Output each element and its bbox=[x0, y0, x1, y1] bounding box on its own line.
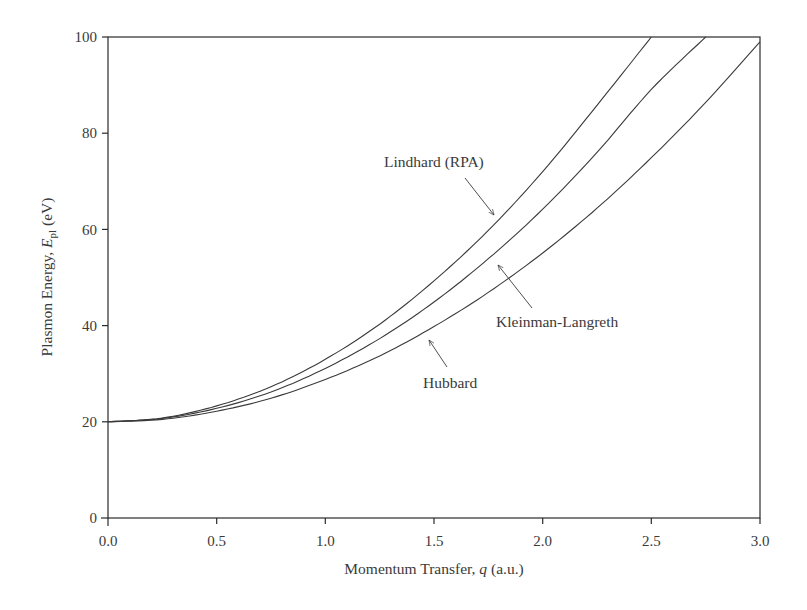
y-axis-label: Plasmon Energy, Epl (eV) bbox=[38, 198, 58, 357]
y-tick-label: 60 bbox=[82, 222, 97, 238]
annotation-hubbard: Hubbard bbox=[423, 374, 477, 391]
curve-kleinman-langreth bbox=[108, 37, 706, 422]
x-tick-label: 0.0 bbox=[99, 533, 118, 549]
x-tick-label: 3.0 bbox=[751, 533, 770, 549]
x-tick-label: 2.0 bbox=[533, 533, 552, 549]
plot-frame bbox=[108, 37, 760, 518]
x-tick-label: 0.5 bbox=[207, 533, 226, 549]
curve-lindhard-rpa bbox=[108, 37, 651, 422]
curve-hubbard bbox=[108, 42, 760, 422]
y-tick-label: 0 bbox=[90, 510, 98, 526]
annotation-lindhard-rpa: Lindhard (RPA) bbox=[384, 153, 484, 171]
x-axis bbox=[108, 518, 760, 526]
annotation-kleinman-langreth: Kleinman-Langreth bbox=[496, 313, 618, 330]
y-tick-label: 100 bbox=[75, 29, 98, 45]
y-tick-label: 20 bbox=[82, 414, 97, 430]
arrow-hubbard-icon bbox=[429, 340, 447, 367]
plasmon-dispersion-chart: 0.0 0.5 1.0 1.5 2.0 2.5 3.0 0 20 40 60 8… bbox=[0, 0, 807, 610]
arrow-kleinman-icon bbox=[498, 265, 532, 308]
x-tick-label: 1.0 bbox=[316, 533, 335, 549]
y-tick-label: 40 bbox=[82, 318, 97, 334]
x-tick-label: 2.5 bbox=[642, 533, 661, 549]
x-tick-label: 1.5 bbox=[425, 533, 444, 549]
x-axis-label: Momentum Transfer, q (a.u.) bbox=[344, 560, 523, 578]
y-tick-label: 80 bbox=[82, 125, 97, 141]
arrow-lindhard-icon bbox=[465, 178, 494, 215]
y-axis bbox=[101, 37, 108, 518]
